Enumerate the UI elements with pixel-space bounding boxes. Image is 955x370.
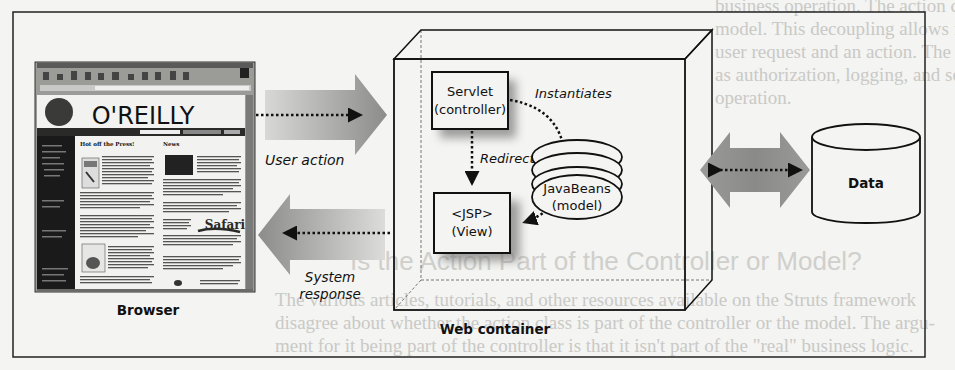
data-access-double-arrow: [700, 132, 810, 208]
javabeans-label: JavaBeans: [542, 181, 611, 196]
user-action-label: User action: [265, 152, 344, 168]
browser-screenshot: O'REILLY Hot off the Press! News: [35, 62, 255, 292]
servlet-label: Servlet: [447, 84, 493, 99]
view-label: (View): [452, 224, 493, 239]
instantiates-label: Instantiates: [535, 86, 612, 101]
system-response-arrow: [258, 194, 390, 275]
browser-label: Browser: [117, 302, 180, 318]
screenshot-sidebar: [37, 136, 75, 289]
screenshot-col1-heading: Hot off the Press!: [80, 141, 135, 147]
model-label: (model): [552, 198, 603, 213]
servlet-controller-box: Servlet (controller): [432, 72, 516, 138]
data-store-cylinder: Data: [812, 124, 920, 223]
controller-label: (controller): [434, 102, 506, 117]
data-label: Data: [848, 175, 884, 191]
user-action-arrow: [256, 74, 387, 155]
system-response-label-line2: response: [299, 286, 361, 302]
redirect-label: Redirect: [480, 151, 535, 166]
oreilly-logo: O'REILLY: [92, 102, 195, 130]
system-response-label-line1: System: [305, 269, 355, 285]
web-container-label: Web container: [440, 321, 551, 337]
mascot-icon: [45, 98, 73, 126]
jsp-label: <JSP>: [451, 206, 493, 221]
jsp-view-box: <JSP> (View): [434, 193, 520, 261]
screenshot-col2-heading: News: [163, 141, 179, 147]
javabeans-model-stack: JavaBeans (model): [532, 140, 622, 219]
